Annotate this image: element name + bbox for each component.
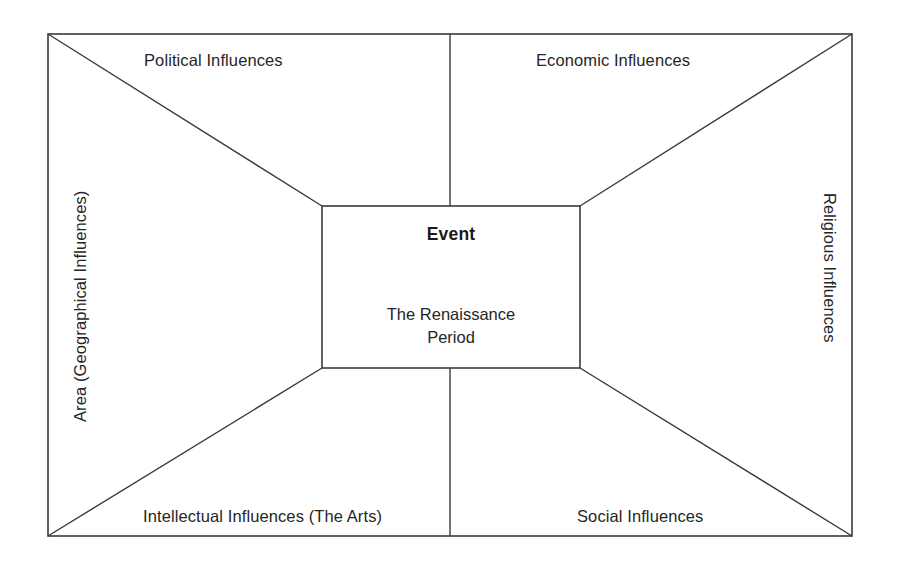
center-body-line-2: Period [322,326,580,349]
diagram-line-art [0,0,901,563]
quadrant-label-intellectual: Intellectual Influences (The Arts) [143,508,382,525]
side-label-religious: Religious Influences [822,193,839,343]
quadrant-label-social: Social Influences [577,508,703,525]
center-box-title: Event [322,224,580,245]
quadrant-label-economic: Economic Influences [536,52,690,69]
center-body-line-1: The Renaissance [322,303,580,326]
center-box-body: The Renaissance Period [322,303,580,349]
side-label-area-geographical: Area (Geographical Influences) [72,191,89,422]
quadrant-label-political: Political Influences [144,52,283,69]
diagram-canvas: Political Influences Economic Influences… [0,0,901,563]
